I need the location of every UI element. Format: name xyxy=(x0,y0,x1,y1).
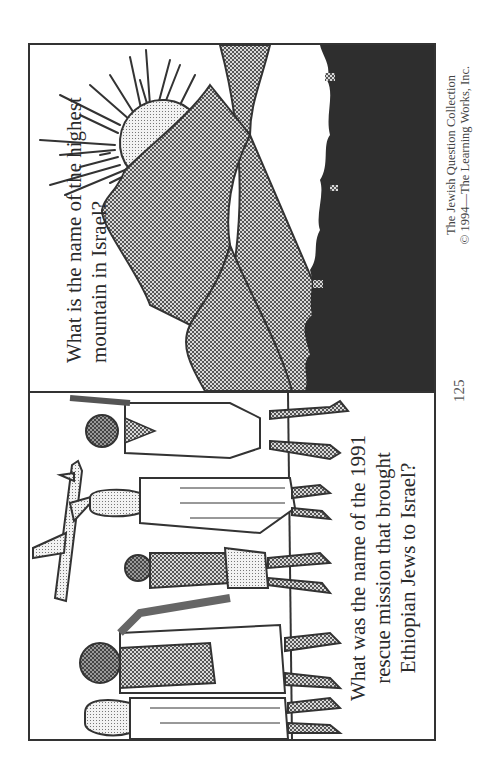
mountain-question-card: What is the name of the highest mountain… xyxy=(28,43,436,393)
question-line: rescue mission that brought xyxy=(371,403,396,733)
airplane-icon xyxy=(33,461,98,601)
rescue-question-card: What was the name of the 1991 rescue mis… xyxy=(28,391,436,741)
person-adult-1 xyxy=(90,478,330,533)
person-adult-3 xyxy=(85,698,340,739)
person-child-1 xyxy=(70,398,348,459)
copyright-footer: The Jewish Question Collection © 1994—Th… xyxy=(444,50,472,260)
page-number: 125 xyxy=(451,380,468,403)
person-child-2 xyxy=(125,548,330,593)
footer-title: The Jewish Question Collection xyxy=(444,50,458,260)
rescue-question-text: What was the name of the 1991 rescue mis… xyxy=(346,403,421,733)
footer-copyright: © 1994—The Learning Works, Inc. xyxy=(458,50,472,260)
mountain-question-text: What is the name of the highest mountain… xyxy=(62,63,112,363)
person-adult-2 xyxy=(80,598,340,693)
question-line: mountain in Israel? xyxy=(87,63,112,363)
question-line: What is the name of the highest xyxy=(62,63,87,363)
question-line: What was the name of the 1991 xyxy=(346,403,371,733)
question-line: Ethiopian Jews to Israel? xyxy=(396,403,421,733)
